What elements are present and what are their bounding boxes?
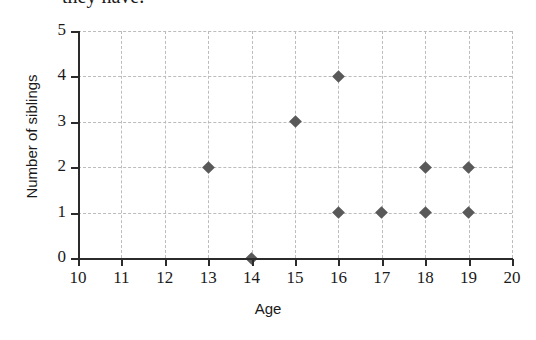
- y-tick-label: 5: [46, 20, 66, 40]
- gridline-vertical: [252, 31, 253, 258]
- x-tick-label: 11: [101, 268, 141, 288]
- x-tick: [425, 259, 427, 266]
- x-tick-label: 15: [275, 268, 315, 288]
- gridline-vertical: [469, 31, 470, 258]
- x-tick-label: 10: [58, 268, 98, 288]
- x-tick-label: 20: [492, 268, 532, 288]
- y-tick: [71, 76, 79, 78]
- data-point: [462, 206, 475, 219]
- y-tick-label: 3: [46, 111, 66, 131]
- x-tick-label: 19: [449, 268, 489, 288]
- y-tick: [71, 167, 79, 169]
- y-tick-label: 4: [46, 65, 66, 85]
- x-tick: [512, 259, 514, 266]
- y-tick: [71, 213, 79, 215]
- scatter-plot-figure: they have. 1011121314151617181920 012345…: [0, 0, 536, 340]
- x-tick: [165, 259, 167, 266]
- y-tick-label: 1: [46, 202, 66, 222]
- x-tick-label: 13: [188, 268, 228, 288]
- x-tick-label: 14: [232, 268, 272, 288]
- caption-clipped-text: they have.: [0, 0, 536, 9]
- x-tick-label: 18: [405, 268, 445, 288]
- y-tick-label: 0: [46, 247, 66, 267]
- x-tick: [338, 259, 340, 266]
- data-point: [419, 206, 432, 219]
- y-tick: [71, 122, 79, 124]
- y-tick-label: 2: [46, 156, 66, 176]
- y-tick: [71, 31, 79, 33]
- x-tick: [469, 259, 471, 266]
- x-tick: [121, 259, 123, 266]
- gridline-vertical: [338, 31, 339, 258]
- gridline-vertical: [425, 31, 426, 258]
- caption-label: they have.: [62, 0, 144, 8]
- gridline-vertical: [382, 31, 383, 258]
- x-tick-label: 16: [318, 268, 358, 288]
- x-tick: [252, 259, 254, 266]
- y-axis-line: [78, 31, 80, 259]
- gridline-vertical: [295, 31, 296, 258]
- gridline-vertical: [208, 31, 209, 258]
- gridline-vertical: [121, 31, 122, 258]
- data-point: [202, 161, 215, 174]
- gridline-horizontal: [78, 76, 512, 77]
- gridline-horizontal: [78, 167, 512, 168]
- data-point: [332, 206, 345, 219]
- x-tick-label: 12: [145, 268, 185, 288]
- data-point: [462, 161, 475, 174]
- gridline-horizontal: [78, 31, 512, 32]
- x-tick: [78, 259, 80, 266]
- data-point: [419, 161, 432, 174]
- x-tick-label: 17: [362, 268, 402, 288]
- plot-area: [78, 31, 512, 258]
- gridline-vertical: [165, 31, 166, 258]
- data-point: [332, 70, 345, 83]
- x-tick: [382, 259, 384, 266]
- data-point: [289, 115, 302, 128]
- x-tick: [295, 259, 297, 266]
- x-tick: [208, 259, 210, 266]
- gridline-vertical: [512, 31, 513, 258]
- gridline-horizontal: [78, 213, 512, 214]
- y-tick: [71, 258, 79, 260]
- y-axis-title: Number of siblings: [23, 42, 40, 232]
- data-point: [375, 206, 388, 219]
- x-axis-title: Age: [0, 300, 536, 317]
